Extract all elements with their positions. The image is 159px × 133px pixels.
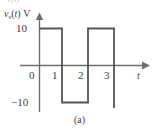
figure-caption: (a) [0,115,159,125]
x-tick-label-3: 3 [104,70,110,81]
y-tick-label-minus-10: −10 [11,97,28,108]
y-axis-label-paren-close: ) [17,8,20,19]
x-tick-label-2: 2 [78,70,84,81]
figure-container: v(t) vs(t) V 10 −10 0 1 2 3 t (a) [0,0,159,133]
y-axis [36,13,43,113]
x-tick-label-0: 0 [29,70,35,81]
x-axis-label: t [137,71,140,81]
y-tick-label-10: 10 [16,23,27,34]
y-axis-unit: V [23,8,30,19]
y-axis-label: vs(t) V [4,9,30,21]
x-tick-label-1: 1 [52,70,58,81]
waveform-trace [40,29,115,109]
